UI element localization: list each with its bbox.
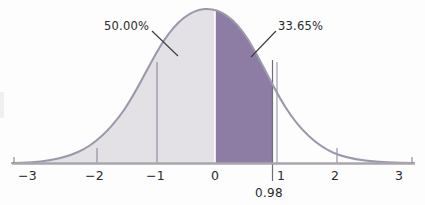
x-tick-label-zero: 0 xyxy=(211,170,219,183)
x-tick-label-neg-3: −3 xyxy=(18,170,37,183)
z-score-label: 0.98 xyxy=(255,187,283,199)
zero-to-z-shaded-area xyxy=(215,0,273,164)
x-tick-label-pos-2: 2 xyxy=(331,170,339,183)
x-tick-label-neg-1: −1 xyxy=(146,170,165,183)
leader-line-right-annotation xyxy=(251,31,276,57)
x-tick-label-one: 1 xyxy=(277,170,285,183)
x-tick-label-neg-2: −2 xyxy=(85,170,104,183)
right-area-annotation-label: 33.65% xyxy=(278,21,323,33)
x-tick-label-pos-3: 3 xyxy=(395,170,403,183)
left-area-annotation-label: 50.00% xyxy=(104,21,149,33)
normal-distribution-figure: 50.00% 33.65% −3 −2 −1 0 1 2 3 0.98 xyxy=(0,0,425,205)
